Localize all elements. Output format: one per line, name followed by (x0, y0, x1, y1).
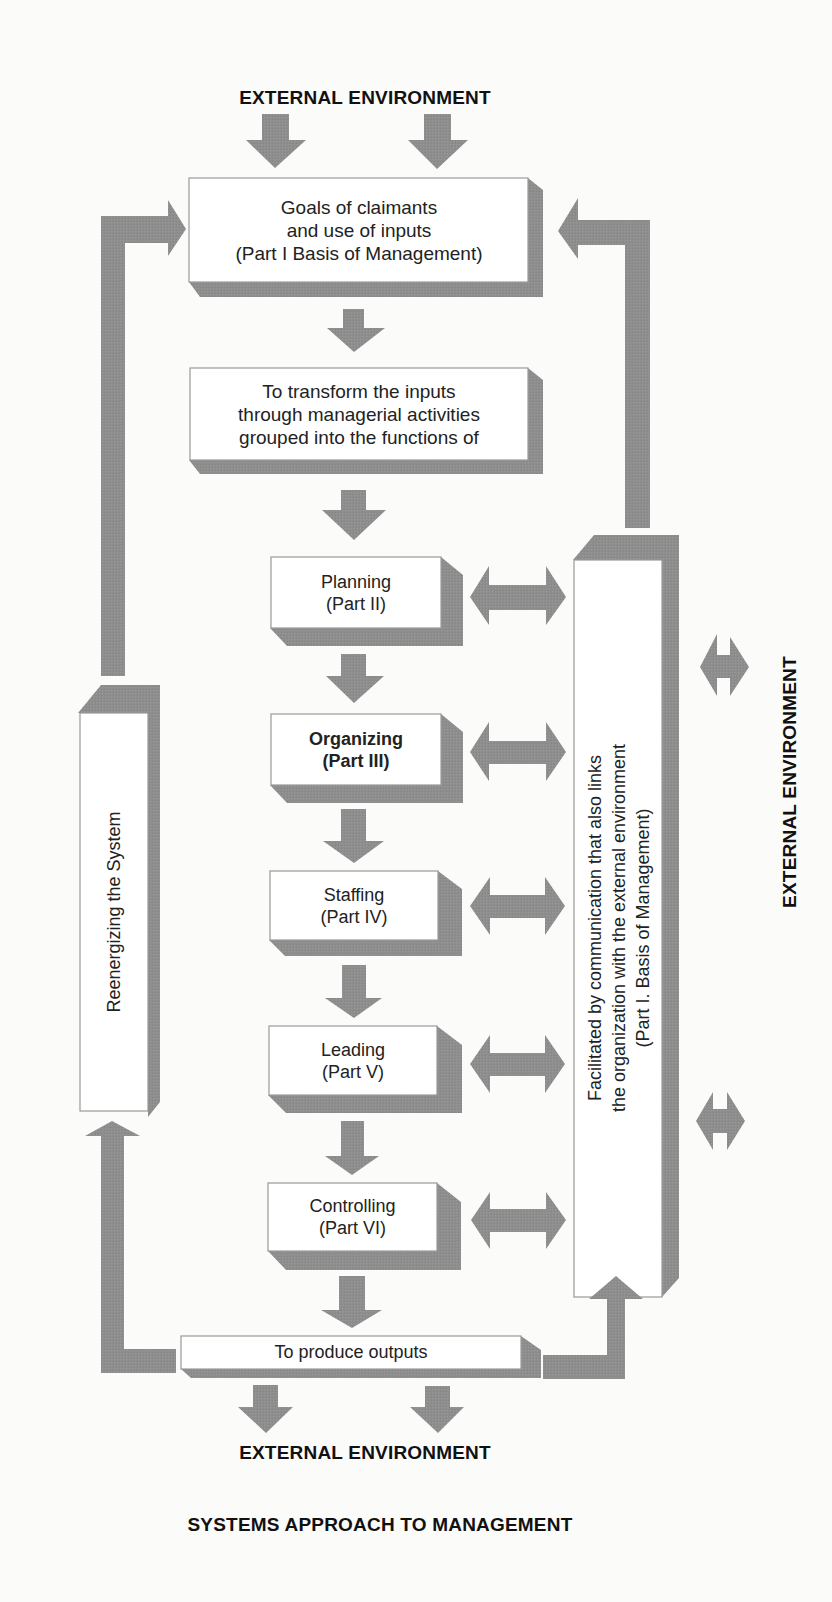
leading-label: Leading (321, 1039, 385, 1061)
arrow-organizing-communication-icon (470, 722, 566, 781)
organizing-part: (Part III) (322, 750, 389, 772)
external-environment-bottom-label: EXTERNAL ENVIRONMENT (170, 1442, 560, 1464)
controlling-box: Controlling (Part VI) (268, 1184, 437, 1250)
arrow-controlling-communication-icon (471, 1192, 566, 1249)
goals-line-1: Goals of claimants (281, 196, 437, 219)
planning-label: Planning (321, 571, 391, 593)
transform-line-2: through managerial activities (238, 403, 480, 426)
controlling-part: (Part VI) (319, 1217, 386, 1239)
external-environment-right-label: EXTERNAL ENVIRONMENT (778, 587, 802, 977)
planning-part: (Part II) (326, 593, 386, 615)
planning-box: Planning (Part II) (271, 558, 441, 627)
organizing-box: Organizing (Part III) (271, 715, 441, 784)
output-arrow-left-icon (238, 1385, 293, 1433)
communication-box: Facilitated by communication that also l… (581, 560, 657, 1297)
transform-box: To transform the inputs through manageri… (190, 370, 528, 458)
organizing-label: Organizing (309, 728, 403, 750)
arrow-planning-communication-icon (470, 566, 566, 625)
arrow-organizing-to-staffing-icon (323, 809, 384, 863)
communication-line-2: the organization with the external envir… (607, 744, 631, 1112)
arrow-reenergizing-to-goals-icon (101, 200, 186, 676)
input-arrow-right-icon (408, 114, 468, 169)
goals-line-2: and use of inputs (287, 219, 432, 242)
diagram-title: SYSTEMS APPROACH TO MANAGEMENT (120, 1514, 640, 1536)
goals-box: Goals of claimants and use of inputs (Pa… (190, 180, 528, 280)
controlling-label: Controlling (309, 1195, 395, 1217)
transform-line-1: To transform the inputs (262, 380, 455, 403)
arrow-leading-communication-icon (470, 1035, 565, 1093)
output-arrow-right-icon (410, 1386, 464, 1433)
leading-box: Leading (Part V) (269, 1027, 437, 1094)
arrow-outputs-to-reenergizing-icon (85, 1121, 176, 1373)
arrow-staffing-communication-icon (470, 877, 565, 935)
reenergizing-box: Reenergizing the System (102, 713, 126, 1111)
arrow-controlling-to-outputs-icon (321, 1276, 382, 1328)
staffing-label: Staffing (324, 884, 385, 906)
arrow-goals-to-transform-icon (327, 309, 385, 352)
arrow-external-lower-icon (696, 1092, 745, 1150)
input-arrow-left-icon (246, 114, 306, 168)
staffing-box: Staffing (Part IV) (270, 872, 438, 939)
outputs-label: To produce outputs (274, 1341, 427, 1364)
communication-line-3: (Part I. Basis of Management) (631, 808, 655, 1047)
arrow-transform-to-planning-icon (322, 490, 386, 540)
staffing-part: (Part IV) (320, 906, 387, 928)
leading-part: (Part V) (322, 1061, 384, 1083)
arrow-planning-to-organizing-icon (326, 654, 384, 703)
external-environment-top-label: EXTERNAL ENVIRONMENT (170, 87, 560, 109)
reenergizing-label: Reenergizing the System (103, 811, 126, 1012)
arrow-leading-to-controlling-icon (325, 1121, 379, 1175)
arrow-staffing-to-leading-icon (325, 965, 382, 1018)
communication-line-1: Facilitated by communication that also l… (583, 755, 607, 1101)
transform-line-3: grouped into the functions of (239, 426, 479, 449)
arrow-external-upper-icon (700, 634, 749, 696)
outputs-box: To produce outputs (181, 1337, 521, 1368)
arrow-communication-to-goals-icon (558, 198, 650, 528)
goals-line-3: (Part I Basis of Management) (235, 242, 482, 265)
